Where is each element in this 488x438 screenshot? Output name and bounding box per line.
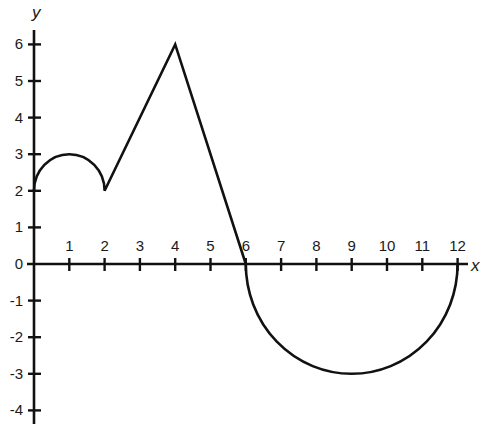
y-tick-label: -2 bbox=[10, 328, 23, 345]
x-tick-label: 9 bbox=[348, 237, 356, 254]
y-tick-label: 3 bbox=[15, 145, 23, 162]
y-tick-label: -4 bbox=[10, 401, 23, 418]
y-tick-label: 6 bbox=[15, 35, 23, 52]
tick-labels: 123456789101112-4-3-2-10123456 bbox=[10, 35, 466, 418]
x-tick-label: 1 bbox=[65, 237, 73, 254]
y-tick-label: 2 bbox=[15, 182, 23, 199]
y-tick-label: 1 bbox=[15, 218, 23, 235]
y-tick-label: -1 bbox=[10, 292, 23, 309]
y-axis-label: y bbox=[31, 3, 42, 22]
x-tick-label: 8 bbox=[312, 237, 320, 254]
x-tick-label: 2 bbox=[100, 237, 108, 254]
x-tick-label: 10 bbox=[379, 237, 396, 254]
x-axis-label: x bbox=[470, 256, 480, 275]
y-tick-label: 0 bbox=[15, 255, 23, 272]
x-tick-label: 5 bbox=[206, 237, 214, 254]
function-curve bbox=[34, 44, 458, 373]
y-tick-label: 5 bbox=[15, 72, 23, 89]
y-tick-label: 4 bbox=[15, 109, 23, 126]
x-tick-label: 4 bbox=[171, 237, 179, 254]
function-graph: 123456789101112-4-3-2-10123456 x y bbox=[0, 0, 488, 438]
x-tick-label: 11 bbox=[415, 237, 431, 254]
x-tick-label: 12 bbox=[449, 237, 466, 254]
x-tick-label: 3 bbox=[136, 237, 144, 254]
ticks bbox=[28, 44, 458, 410]
y-tick-label: -3 bbox=[10, 365, 23, 382]
x-tick-label: 7 bbox=[277, 237, 285, 254]
axes bbox=[27, 30, 468, 424]
